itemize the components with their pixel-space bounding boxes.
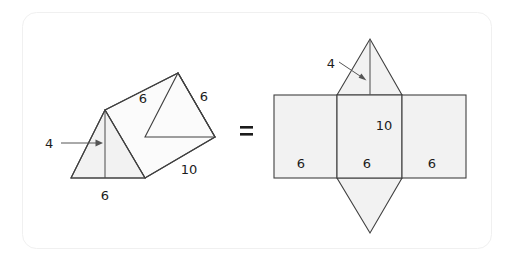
- prism-base-label: 6: [101, 188, 109, 203]
- net-rect-height-label: 10: [376, 118, 393, 133]
- net-rect-middle-label: 6: [363, 156, 371, 171]
- geometry-figure-svg: 4 6 6 10 6 4: [0, 0, 513, 263]
- equals-bar-top: [240, 126, 253, 129]
- net-rect-left-label: 6: [297, 156, 305, 171]
- figure-card: 4 6 6 10 6 4: [0, 0, 513, 263]
- prism-slant-top-label: 6: [139, 91, 147, 106]
- equals-bar-bottom: [240, 133, 253, 136]
- net-height-label: 4: [327, 56, 335, 71]
- prism-length-label: 10: [181, 162, 198, 177]
- prism-height-label: 4: [45, 136, 53, 151]
- prism-slant-right-label: 6: [200, 89, 208, 104]
- net-rect-left: [274, 95, 337, 178]
- net-rect-right-label: 6: [428, 156, 436, 171]
